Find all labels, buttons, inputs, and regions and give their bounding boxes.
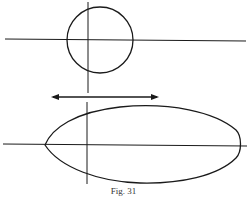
figure-diagram (0, 0, 247, 199)
bottom-horizontal-axis (3, 144, 247, 146)
figure-caption: Fig. 31 (0, 186, 247, 196)
top-horizontal-axis (5, 39, 246, 41)
